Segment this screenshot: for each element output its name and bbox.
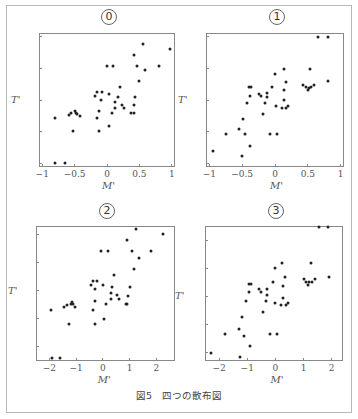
x-tick-label: 1 xyxy=(301,363,307,373)
data-point xyxy=(311,281,314,284)
data-point xyxy=(318,226,321,229)
data-point xyxy=(308,68,311,71)
data-point xyxy=(274,267,277,270)
x-axis-label: M' xyxy=(270,374,283,385)
data-point xyxy=(310,86,313,89)
data-point xyxy=(287,302,290,305)
data-point xyxy=(117,96,120,99)
x-tick-label: 0 xyxy=(272,169,278,179)
data-point xyxy=(117,297,120,300)
data-point xyxy=(250,86,253,89)
data-point xyxy=(260,291,263,294)
data-point xyxy=(309,261,312,264)
x-tick-label: 1 xyxy=(169,169,175,179)
data-point xyxy=(94,288,97,291)
data-point xyxy=(96,116,99,119)
data-point xyxy=(281,261,284,264)
data-point xyxy=(287,105,290,108)
data-point xyxy=(266,91,269,94)
y-tick-mark xyxy=(205,324,208,325)
panel-number-label: 2 xyxy=(99,203,115,219)
data-point xyxy=(209,351,212,354)
y-tick-mark xyxy=(36,234,39,235)
data-point xyxy=(94,94,97,97)
data-point xyxy=(244,299,247,302)
data-point xyxy=(237,127,240,130)
data-point xyxy=(274,302,277,305)
y-tick-mark xyxy=(36,346,39,347)
data-point xyxy=(136,64,139,67)
data-point xyxy=(327,275,330,278)
data-point xyxy=(126,294,129,297)
y-tick-mark xyxy=(205,268,208,269)
x-tick-mark xyxy=(247,358,248,361)
data-point xyxy=(249,94,252,97)
data-point xyxy=(326,36,329,39)
data-point xyxy=(59,357,62,360)
x-tick-mark xyxy=(242,164,243,167)
x-tick-label: −1 xyxy=(241,363,254,373)
data-point xyxy=(249,144,252,147)
data-point xyxy=(247,291,250,294)
data-point xyxy=(104,302,107,305)
data-point xyxy=(54,116,57,119)
data-point xyxy=(275,333,278,336)
data-point xyxy=(126,302,129,305)
data-point xyxy=(92,308,95,311)
data-point xyxy=(282,99,285,102)
x-tick-mark xyxy=(303,358,304,361)
data-point xyxy=(306,284,309,287)
x-tick-mark xyxy=(74,164,75,167)
x-tick-mark xyxy=(139,164,140,167)
x-tick-mark xyxy=(307,164,308,167)
data-point xyxy=(89,283,92,286)
data-point xyxy=(280,303,283,306)
x-tick-mark xyxy=(219,358,220,361)
x-tick-mark xyxy=(129,358,130,361)
x-tick-mark xyxy=(209,164,210,167)
y-tick-mark xyxy=(205,296,208,297)
data-point xyxy=(133,54,136,57)
data-point xyxy=(243,334,246,337)
x-tick-label: 1 xyxy=(338,169,344,179)
x-tick-label: 0 xyxy=(273,363,279,373)
data-point xyxy=(282,68,285,71)
x-tick-label: −1 xyxy=(36,169,49,179)
data-point xyxy=(149,250,152,253)
x-tick-label: −1 xyxy=(69,363,82,373)
data-point xyxy=(94,323,97,326)
data-point xyxy=(72,130,75,133)
x-tick-label: −2 xyxy=(43,363,56,373)
y-tick-mark xyxy=(205,240,208,241)
data-point xyxy=(137,256,140,259)
x-tick-mark xyxy=(76,358,77,361)
y-tick-mark xyxy=(36,262,39,263)
y-tick-mark xyxy=(39,36,42,37)
data-point xyxy=(326,80,329,83)
y-tick-mark xyxy=(36,290,39,291)
data-point xyxy=(240,316,243,319)
data-point xyxy=(268,132,271,135)
y-tick-mark xyxy=(206,36,209,37)
data-point xyxy=(282,296,285,299)
data-point xyxy=(123,106,126,109)
data-point xyxy=(274,104,277,107)
x-tick-label: 0.5 xyxy=(301,169,315,179)
data-point xyxy=(264,102,267,105)
y-tick-mark xyxy=(206,100,209,101)
data-point xyxy=(282,284,285,287)
data-point xyxy=(242,118,245,121)
x-tick-mark xyxy=(275,358,276,361)
x-tick-label: 1 xyxy=(127,363,133,373)
data-point xyxy=(161,232,164,235)
data-point xyxy=(285,81,288,84)
data-point xyxy=(96,279,99,282)
x-tick-mark xyxy=(340,164,341,167)
x-tick-mark xyxy=(275,164,276,167)
data-point xyxy=(107,250,110,253)
data-point xyxy=(280,107,283,110)
x-tick-label: −0.5 xyxy=(231,169,253,179)
data-point xyxy=(250,282,253,285)
x-tick-mark xyxy=(331,358,332,361)
data-point xyxy=(94,299,97,302)
